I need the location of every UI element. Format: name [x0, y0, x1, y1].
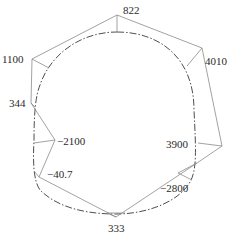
ordinate-ticks	[31, 15, 222, 217]
label-right-lower: −2800	[160, 182, 189, 194]
label-left-waist: −2100	[57, 135, 86, 147]
tick-right-waist	[198, 143, 222, 146]
label-right-waist: 3900	[166, 138, 189, 150]
value-labels: 822 4010 1100 344 −2100 3900 −40.7 −2800…	[2, 4, 228, 234]
label-left-upper: 1100	[2, 53, 24, 65]
label-top: 822	[123, 4, 140, 16]
label-left-mid: 344	[9, 97, 26, 109]
label-left-lower: −40.7	[47, 168, 73, 180]
moment-envelope-polyline	[31, 15, 222, 217]
label-right-upper: 4010	[205, 55, 228, 67]
tick-left-waist	[34, 140, 55, 143]
tick-right-upper	[187, 48, 202, 66]
label-bottom: 333	[108, 222, 125, 234]
tick-left-upper	[32, 59, 49, 68]
moment-diagram: 822 4010 1100 344 −2100 3900 −40.7 −2800…	[0, 0, 235, 242]
